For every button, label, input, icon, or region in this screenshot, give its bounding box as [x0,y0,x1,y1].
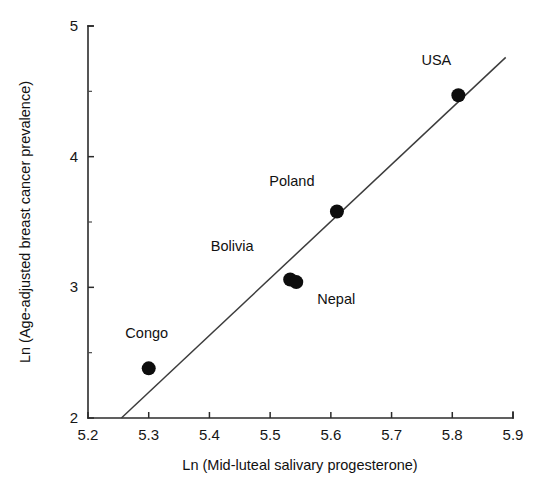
data-point-usa [451,88,465,102]
data-point-label-poland: Poland [269,173,314,189]
data-point-congo [142,361,156,375]
x-tick-label-4: 5.6 [320,426,341,443]
y-tick-label-0: 2 [70,409,78,426]
x-tick-label-6: 5.8 [442,426,463,443]
x-tick-label-1: 5.3 [138,426,159,443]
data-point-label-usa: USA [421,52,451,68]
x-tick-label-2: 5.4 [199,426,220,443]
data-point-label-bolivia: Bolivia [211,238,255,254]
y-tick-label-2: 4 [70,148,78,165]
x-tick-label-0: 5.2 [78,426,99,443]
x-axis-ticks [88,412,513,418]
y-axis-tick-labels: 2345 [70,17,78,426]
y-axis-title: Ln (Age-adjusted breast cancer prevalenc… [17,81,33,363]
trend-line-group [121,57,505,418]
x-axis-title: Ln (Mid-luteal salivary progesterone) [182,457,417,473]
chart-figure: 5.25.35.45.55.65.75.85.9 2345 CongoBoliv… [0,0,547,490]
x-tick-label-5: 5.7 [381,426,402,443]
x-tick-label-7: 5.9 [503,426,524,443]
data-point-poland [330,205,344,219]
data-point-labels-group: CongoBoliviaNepalPolandUSA [125,52,451,341]
scatter-plot-canvas: 5.25.35.45.55.65.75.85.9 2345 CongoBoliv… [0,0,547,490]
axes-group [88,26,513,418]
data-point-nepal [289,275,303,289]
regression-line [121,57,505,418]
x-axis-tick-labels: 5.25.35.45.55.65.75.85.9 [78,426,524,443]
data-points-group [142,88,466,375]
x-tick-label-3: 5.5 [260,426,281,443]
data-point-label-nepal: Nepal [317,291,355,307]
y-tick-label-1: 3 [70,278,78,295]
y-tick-label-3: 5 [70,17,78,34]
data-point-label-congo: Congo [125,325,168,341]
